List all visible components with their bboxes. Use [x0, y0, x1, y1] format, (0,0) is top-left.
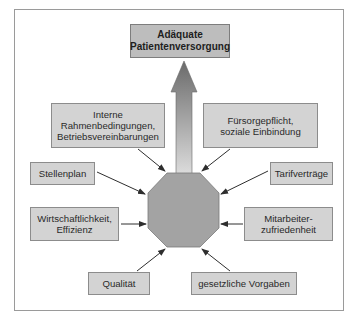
goal-label: Adäquate Patientenversorgung [130, 29, 230, 53]
factor-box-mitarbeiter: Mitarbeiter- zufriedenheit [244, 207, 333, 241]
factor-label: Qualität [102, 278, 135, 289]
main-arrow-icon [171, 61, 197, 174]
factor-box-wirtschaft: Wirtschaftlichkeit, Effizienz [30, 207, 119, 241]
arrow-tarif-icon [221, 171, 268, 194]
factor-box-qualitaet: Qualität [88, 272, 150, 295]
arrow-interne-icon [138, 149, 165, 171]
factor-box-tarif: Tarifverträge [270, 162, 333, 185]
factor-box-gesetz: gesetzliche Vorgaben [191, 272, 297, 295]
goal-box: Adäquate Patientenversorgung [130, 24, 230, 58]
arrow-fuersorge-icon [202, 149, 230, 171]
factor-box-fuersorge: Fürsorgepflicht, soziale Einbindung [203, 103, 318, 148]
factor-label: Stellenplan [39, 168, 86, 179]
factor-label: gesetzliche Vorgaben [198, 278, 290, 289]
arrow-stellenplan-icon [97, 172, 145, 194]
arrow-qualitaet-icon [137, 249, 165, 271]
factor-label: Tarifverträge [275, 168, 328, 179]
arrow-gesetz-icon [202, 249, 230, 271]
factor-label: Fürsorgepflicht, soziale Einbindung [220, 115, 301, 137]
factor-box-stellenplan: Stellenplan [30, 162, 95, 185]
factor-box-interne: Interne Rahmenbedingungen, Betriebsverei… [51, 103, 165, 148]
factor-label: Interne Rahmenbedingungen, Betriebsverei… [57, 109, 159, 142]
factor-label: Mitarbeiter- zufriedenheit [261, 213, 316, 235]
center-octagon-icon [148, 173, 219, 247]
factor-label: Wirtschaftlichkeit, Effizienz [37, 213, 112, 235]
